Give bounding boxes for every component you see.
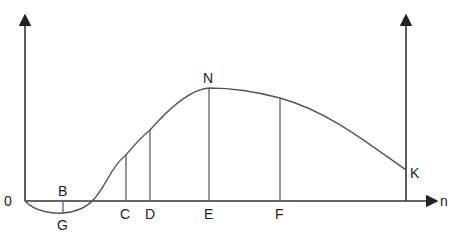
label-x-axis: n [440,193,448,209]
label-g: G [57,217,68,233]
label-b: B [58,183,67,199]
label-e: E [204,206,213,222]
label-origin: 0 [4,193,12,209]
label-f: F [275,206,284,222]
diagram-canvas: 0 B G C D E N F K n [0,0,461,242]
label-k: K [410,165,420,181]
curve [25,88,406,213]
label-d: D [145,206,155,222]
label-n: N [203,70,213,86]
label-c: C [120,206,130,222]
